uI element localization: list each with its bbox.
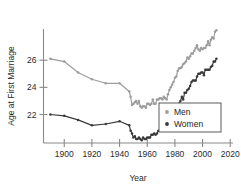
x-tick-label: 1920 (82, 149, 101, 159)
data-point (210, 39, 213, 42)
y-axis-title: Age at First Marriage (6, 46, 16, 126)
x-tick-label: 1900 (55, 149, 74, 159)
data-point (49, 58, 52, 61)
x-tick-label: 2000 (193, 149, 212, 159)
data-point (194, 79, 197, 82)
x-tick-label: 2020 (221, 149, 240, 159)
data-point (131, 132, 134, 135)
data-point (129, 96, 132, 99)
data-point (192, 52, 195, 55)
data-point (211, 64, 214, 67)
data-point (152, 98, 155, 101)
data-point (179, 100, 182, 103)
legend-label-men: Men (174, 107, 191, 117)
data-point (140, 139, 143, 142)
data-point (63, 60, 66, 63)
data-point (154, 102, 157, 105)
data-point (193, 49, 196, 52)
data-point (128, 124, 131, 127)
data-point (185, 60, 188, 63)
data-point (118, 120, 121, 123)
line-chart: 222426 1900192019401960198020002020 Year… (0, 0, 241, 187)
legend: MenWomen (159, 103, 221, 132)
data-point (212, 37, 215, 40)
data-point (161, 98, 164, 101)
data-point (150, 102, 153, 105)
y-tick-label: 22 (27, 110, 37, 120)
data-point (187, 58, 190, 61)
data-point (205, 44, 208, 47)
data-point (175, 75, 178, 78)
series-men (49, 29, 217, 109)
data-point (63, 115, 66, 118)
data-point (194, 47, 197, 50)
data-point (91, 78, 94, 81)
data-point (208, 44, 211, 47)
data-point (77, 119, 80, 122)
data-point (172, 81, 175, 84)
data-point (189, 55, 192, 58)
data-point (77, 71, 80, 74)
data-point (134, 135, 137, 138)
data-point (203, 74, 206, 77)
data-point (204, 47, 207, 50)
data-point (215, 29, 218, 32)
data-point (128, 90, 131, 93)
data-point (181, 66, 184, 69)
data-point (135, 100, 138, 103)
data-point (196, 75, 199, 78)
x-axis-ticks: 1900192019401960198020002020 (55, 139, 240, 159)
x-tick-label: 1960 (138, 149, 157, 159)
data-point (104, 123, 107, 126)
data-point (165, 98, 168, 101)
legend-label-women: Women (174, 119, 203, 129)
legend-marker-women (165, 122, 169, 126)
data-point (185, 92, 188, 95)
x-tick-label: 1980 (165, 149, 184, 159)
data-point (201, 71, 204, 74)
data-point (215, 58, 218, 61)
data-point (171, 83, 174, 86)
data-point (167, 93, 170, 96)
data-point (156, 132, 159, 135)
data-point (104, 82, 107, 85)
data-point (170, 86, 173, 89)
x-tick-label: 1940 (110, 149, 129, 159)
y-tick-label: 26 (27, 55, 37, 65)
data-point (208, 68, 211, 71)
data-point (138, 100, 141, 103)
data-point (145, 106, 148, 109)
y-axis-ticks: 222426 (27, 55, 47, 119)
data-point (182, 98, 185, 101)
data-point (118, 82, 121, 85)
chart-figure: 222426 1900192019401960198020002020 Year… (0, 0, 241, 187)
data-point (187, 87, 190, 90)
data-point (207, 40, 210, 43)
x-axis-title: Year (129, 173, 146, 183)
data-point (49, 113, 52, 116)
data-point (149, 136, 152, 139)
data-point (214, 60, 217, 63)
data-point (199, 49, 202, 52)
data-point (196, 44, 199, 47)
data-point (176, 70, 179, 73)
data-point (91, 124, 94, 127)
data-point (189, 85, 192, 88)
data-point (181, 96, 184, 99)
data-point (129, 130, 132, 133)
series-line (50, 30, 216, 107)
data-point (136, 102, 139, 105)
data-point (168, 89, 171, 92)
legend-marker-men (165, 110, 169, 114)
y-tick-label: 24 (27, 82, 37, 92)
